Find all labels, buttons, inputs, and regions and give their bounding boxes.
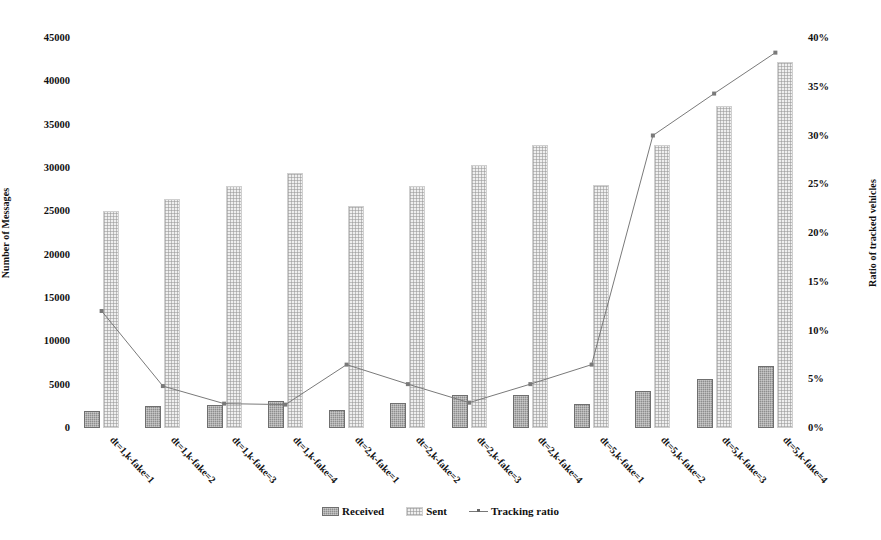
tracking-ratio-point (283, 403, 287, 407)
legend-item-tracking-ratio: Tracking ratio (469, 505, 559, 517)
y-axis-right-tick: 20% (808, 228, 829, 239)
tracking-ratio-swatch-icon (469, 507, 488, 516)
sent-swatch-icon (406, 507, 423, 516)
y-axis-left-tick: 35000 (44, 120, 70, 131)
tracking-ratio-point (651, 134, 655, 138)
x-axis-tick: dt=5,k-fake=2 (659, 434, 708, 485)
y-axis-left-tick: 10000 (44, 336, 70, 347)
legend-item-received: Received (322, 505, 384, 517)
y-axis-left-tick: 25000 (44, 206, 70, 217)
y-axis-left-tick: 20000 (44, 250, 70, 261)
y-axis-right-tick: 40% (808, 33, 829, 44)
legend-label-sent: Sent (426, 505, 447, 517)
tracking-ratio-point (406, 382, 410, 386)
chart-figure: Number of Messages Ratio of tracked vehi… (0, 0, 881, 540)
tracking-ratio-point (345, 363, 349, 367)
tracking-ratio-point (528, 382, 532, 386)
y-axis-left-tick: 45000 (44, 33, 70, 44)
x-axis-tick: dt=5,k-fake=3 (720, 434, 769, 485)
y-axis-right-tick: 10% (808, 326, 829, 337)
tracking-ratio-point (773, 51, 777, 55)
tracking-ratio-point (467, 401, 471, 405)
y-axis-right-tick: 25% (808, 179, 829, 190)
legend-label-tracking-ratio: Tracking ratio (491, 505, 559, 517)
tracking-ratio-point (222, 402, 226, 406)
y-axis-left-tick: 5000 (49, 380, 70, 391)
y-axis-right-tick: 5% (808, 374, 824, 385)
tracking-ratio-line (70, 38, 805, 428)
x-axis-tick: dt=1,k-fake=2 (169, 434, 218, 485)
x-axis-tick: dt=2,k-fake=1 (353, 434, 402, 485)
y-axis-right-tick: 15% (808, 277, 829, 288)
received-swatch-icon (322, 507, 339, 516)
x-axis-tick: dt=2,k-fake=2 (414, 434, 463, 485)
tracking-ratio-markers (100, 51, 778, 407)
plot-area (70, 38, 805, 428)
x-axis-tick: dt=1,k-fake=1 (108, 434, 157, 485)
legend-label-received: Received (342, 505, 384, 517)
legend-item-sent: Sent (406, 505, 447, 517)
y-axis-right-tick: 30% (808, 131, 829, 142)
chart-legend: Received Sent Tracking ratio (0, 505, 881, 517)
tracking-ratio-polyline (102, 53, 776, 405)
tracking-ratio-point (590, 363, 594, 367)
y-axis-left-tick: 30000 (44, 163, 70, 174)
y-axis-right-tick: 35% (808, 82, 829, 93)
tracking-ratio-point (712, 92, 716, 96)
x-axis-tick: dt=5,k-fake=1 (598, 434, 647, 485)
y-axis-left-title: Number of Messages (0, 188, 11, 279)
x-axis-tick: dt=5,k-fake=4 (781, 434, 830, 485)
y-axis-right-title: Ratio of tracked vehicles (867, 179, 878, 287)
x-axis-tick: dt=1,k-fake=3 (230, 434, 279, 485)
y-axis-right-tick: 0% (808, 423, 824, 434)
x-axis-tick: dt=2,k-fake=3 (475, 434, 524, 485)
tracking-ratio-point (100, 309, 104, 313)
tracking-ratio-point (161, 384, 165, 388)
y-axis-left-tick: 40000 (44, 76, 70, 87)
x-axis-tick: dt=1,k-fake=4 (291, 434, 340, 485)
x-axis-tick: dt=2,k-fake=4 (536, 434, 585, 485)
y-axis-left-tick: 15000 (44, 293, 70, 304)
